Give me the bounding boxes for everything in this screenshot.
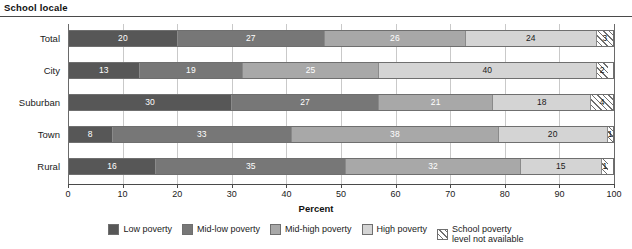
bar-rural[interactable]: 163532151 [68,158,614,175]
x-tick-label-60: 60 [391,189,401,199]
bar-segment-city-2[interactable]: 25 [243,63,379,78]
bar-value-label: 30 [145,98,155,107]
bar-value-label: 15 [556,162,566,171]
chart-plot-area: 2027262431319254023027211848333820116353… [68,24,614,184]
bar-segment-city-1[interactable]: 19 [140,63,243,78]
page-title: School locale [4,2,68,13]
row-label-city: City [0,65,60,76]
x-tick-70 [450,184,451,188]
legend-label: High poverty [377,224,428,234]
row-label-rural: Rural [0,161,60,172]
bar-value-label: 32 [428,162,438,171]
bar-value-label: 1 [602,162,607,171]
legend-swatch-icon-1 [182,224,193,235]
row-label-suburban: Suburban [0,97,60,108]
x-tick-10 [123,184,124,188]
bar-segment-city-0[interactable]: 13 [69,63,140,78]
bar-segment-town-1[interactable]: 33 [113,127,293,142]
bar-suburban[interactable]: 302721184 [68,94,614,111]
legend-label: Mid-low poverty [197,224,260,234]
bar-value-label: 25 [306,66,316,75]
legend-swatch-icon-0 [108,224,119,235]
legend-swatch-icon-4 [437,229,448,240]
bar-total[interactable]: 202726243 [68,30,614,47]
gridline-100 [614,24,615,184]
bar-value-label: 24 [526,34,536,43]
bar-value-label: 40 [483,66,493,75]
bar-value-label: 4 [600,98,605,107]
x-tick-40 [286,184,287,188]
bar-segment-total-1[interactable]: 27 [178,31,325,46]
x-tick-90 [559,184,560,188]
legend-swatch-icon-3 [362,224,373,235]
bar-value-label: 1 [608,130,613,139]
x-tick-50 [341,184,342,188]
x-tick-label-70: 70 [445,189,455,199]
x-tick-label-20: 20 [172,189,182,199]
legend-label: Mid-high poverty [285,224,352,234]
legend-item-2[interactable]: Mid-high poverty [270,224,352,235]
bar-value-label: 13 [99,66,109,75]
bar-segment-suburban-1[interactable]: 27 [232,95,379,110]
bar-segment-total-4[interactable]: 3 [597,31,613,46]
x-tick-label-50: 50 [336,189,346,199]
bar-value-label: 2 [600,66,605,75]
bar-segment-suburban-3[interactable]: 18 [493,95,591,110]
bar-segment-rural-0[interactable]: 16 [69,159,156,174]
legend-item-1[interactable]: Mid-low poverty [182,224,260,235]
bar-segment-total-0[interactable]: 20 [69,31,178,46]
x-tick-label-10: 10 [118,189,128,199]
x-tick-100 [614,184,615,188]
bar-value-label: 21 [431,98,441,107]
x-tick-label-80: 80 [500,189,510,199]
bar-value-label: 27 [246,34,256,43]
bar-segment-town-2[interactable]: 38 [292,127,499,142]
legend-label: Low poverty [123,224,172,234]
bar-segment-city-4[interactable]: 2 [597,63,608,78]
title-divider [0,16,632,17]
legend-item-4[interactable]: School poverty level not available [437,224,524,245]
bar-value-label: 27 [300,98,310,107]
x-tick-60 [396,184,397,188]
bar-segment-suburban-0[interactable]: 30 [69,95,232,110]
bar-value-label: 16 [107,162,117,171]
bar-segment-rural-1[interactable]: 35 [156,159,346,174]
bar-town[interactable]: 83338201 [68,126,614,143]
x-tick-label-90: 90 [554,189,564,199]
bar-segment-total-3[interactable]: 24 [466,31,597,46]
row-label-town: Town [0,129,60,140]
bar-segment-town-4[interactable]: 1 [608,127,613,142]
bar-segment-rural-4[interactable]: 1 [602,159,607,174]
bar-segment-suburban-4[interactable]: 4 [591,95,613,110]
bar-value-label: 18 [537,98,547,107]
x-tick-80 [505,184,506,188]
x-tick-label-0: 0 [65,189,70,199]
bar-city[interactable]: 131925402 [68,62,614,79]
bar-value-label: 19 [186,66,196,75]
chart-legend: Low povertyMid-low povertyMid-high pover… [0,224,632,245]
x-axis-title: Percent [0,203,632,214]
legend-label: School poverty level not available [452,224,524,245]
bar-segment-town-0[interactable]: 8 [69,127,113,142]
bar-segment-town-3[interactable]: 20 [499,127,608,142]
bar-value-label: 38 [390,130,400,139]
bar-value-label: 20 [118,34,128,43]
bar-value-label: 26 [390,34,400,43]
x-tick-label-40: 40 [281,189,291,199]
legend-item-0[interactable]: Low poverty [108,224,172,235]
row-label-total: Total [0,33,60,44]
bar-value-label: 3 [602,34,607,43]
bar-segment-rural-2[interactable]: 32 [346,159,520,174]
bar-segment-suburban-2[interactable]: 21 [379,95,493,110]
bar-value-label: 33 [197,130,207,139]
bar-segment-rural-3[interactable]: 15 [521,159,603,174]
x-tick-label-30: 30 [227,189,237,199]
bar-value-label: 8 [88,130,93,139]
bar-segment-total-2[interactable]: 26 [325,31,466,46]
bar-value-label: 35 [246,162,256,171]
x-tick-20 [177,184,178,188]
bar-segment-city-3[interactable]: 40 [379,63,597,78]
x-tick-label-100: 100 [606,189,621,199]
legend-swatch-icon-2 [270,224,281,235]
legend-item-3[interactable]: High poverty [362,224,428,235]
